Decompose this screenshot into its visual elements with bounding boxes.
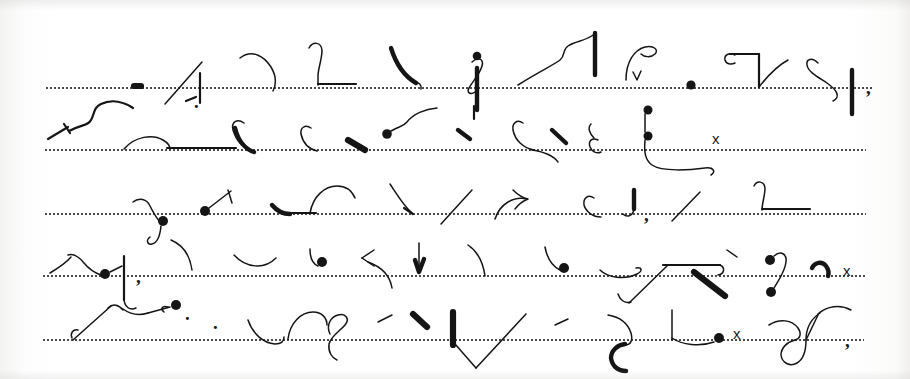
mark-x-row4: x xyxy=(843,263,851,278)
stroke-r5-l xyxy=(413,314,427,327)
stroke-r5-x xyxy=(818,307,851,314)
stroke-r1-k xyxy=(473,52,482,61)
stroke-r2-o xyxy=(532,150,558,162)
stroke-r5-t xyxy=(672,338,714,345)
mark-period-row1: . xyxy=(194,92,199,111)
mark-x-row2: x xyxy=(712,131,720,146)
stroke-r5-u xyxy=(714,333,724,343)
stroke-r5-i xyxy=(288,312,327,339)
stroke-r2-d xyxy=(124,137,170,149)
stroke-r3-e xyxy=(209,191,231,208)
stroke-r5-e xyxy=(148,307,170,313)
stroke-r5-h xyxy=(248,320,284,344)
stroke-r4-w xyxy=(718,265,724,275)
stroke-r2-v xyxy=(589,124,594,138)
stroke-r5-j xyxy=(328,315,347,360)
stroke-r3-i xyxy=(310,186,355,213)
stroke-r4-d xyxy=(110,266,122,272)
stroke-r2-s xyxy=(644,132,653,141)
stroke-r2-k xyxy=(391,108,437,131)
stroke-r3-s xyxy=(754,182,765,210)
stroke-r1-m xyxy=(518,33,596,85)
stroke-r2-m xyxy=(458,130,470,139)
stroke-r5-n xyxy=(455,344,476,368)
stroke-r1-f xyxy=(309,43,322,85)
stroke-r2-p xyxy=(552,130,566,143)
stroke-r4-u xyxy=(629,266,667,303)
stroke-r1-r xyxy=(725,54,735,64)
stroke-r1-q xyxy=(686,80,695,89)
stroke-r4-ac xyxy=(812,263,829,276)
stroke-r4-t xyxy=(618,294,631,303)
stroke-r4-m xyxy=(368,262,392,288)
stroke-r5-v xyxy=(769,321,800,340)
stroke-r5-r xyxy=(611,344,626,371)
stroke-r3-a xyxy=(133,199,161,223)
mark-x-row5: x xyxy=(733,326,741,341)
stroke-r5-k xyxy=(378,315,392,322)
row-3-strokes xyxy=(133,182,810,244)
stroke-r5-d xyxy=(123,309,148,314)
stroke-r4-i xyxy=(310,249,318,266)
stroke-r3-j xyxy=(390,184,411,212)
stroke-r1-e xyxy=(240,54,275,91)
stroke-r2-t xyxy=(645,140,714,175)
mark-comma-row1: , xyxy=(866,78,871,97)
stroke-r5-g xyxy=(171,300,181,310)
stroke-r3-c xyxy=(148,226,161,244)
mark-period-row4: . xyxy=(213,313,218,332)
stroke-r3-l xyxy=(441,190,472,224)
stroke-r2-i xyxy=(348,140,365,150)
stroke-r4-f xyxy=(124,298,136,309)
stroke-r5-q xyxy=(608,315,632,345)
mark-comma-row3a: , xyxy=(136,267,141,286)
row-4-strokes xyxy=(50,240,829,309)
stroke-r4-y xyxy=(727,250,737,257)
stroke-r4-ab xyxy=(766,287,776,297)
stroke-r5-o xyxy=(476,314,526,368)
stroke-r1-p xyxy=(633,71,641,80)
scanned-page: x x x , , , , . . . xyxy=(0,0,910,379)
stroke-r4-c xyxy=(100,269,110,279)
stroke-r4-j xyxy=(317,257,327,267)
stroke-r2-h xyxy=(301,126,317,151)
stroke-r4-h xyxy=(234,255,276,266)
stroke-r3-o xyxy=(584,196,601,217)
stroke-r1-u xyxy=(759,60,788,87)
stroke-r4-a xyxy=(50,257,71,273)
stroke-r4-p xyxy=(468,245,485,276)
stroke-r2-g xyxy=(235,128,254,152)
handwriting-ink-layer xyxy=(0,0,910,379)
stroke-r5-p xyxy=(555,319,568,325)
stroke-r4-r xyxy=(559,263,569,273)
mark-comma-row5: , xyxy=(845,331,850,350)
stroke-r2-q xyxy=(644,106,653,115)
stroke-r2-u xyxy=(589,139,601,153)
row-1-strokes xyxy=(134,33,852,114)
stroke-r3-r xyxy=(672,192,700,221)
stroke-r1-v xyxy=(807,59,837,101)
mark-period-row3: . xyxy=(185,304,190,323)
stroke-r4-g xyxy=(171,240,192,270)
stroke-r3-b xyxy=(158,216,168,226)
stroke-r2-n xyxy=(513,121,534,150)
stroke-r1-h xyxy=(391,48,416,83)
stroke-r4-b xyxy=(68,255,101,275)
stroke-r2-a xyxy=(48,127,68,139)
stroke-r2-c xyxy=(69,101,133,131)
stroke-r4-s xyxy=(600,268,641,278)
stroke-r4-x xyxy=(694,272,725,296)
mark-comma-row3b: , xyxy=(644,205,649,224)
stroke-r1-o xyxy=(626,47,656,80)
stroke-r4-k xyxy=(362,250,374,258)
stroke-r5-a xyxy=(73,306,111,340)
stroke-r4-q xyxy=(545,247,560,270)
stroke-r4-aa xyxy=(774,253,786,288)
row-2-strokes xyxy=(48,101,714,175)
